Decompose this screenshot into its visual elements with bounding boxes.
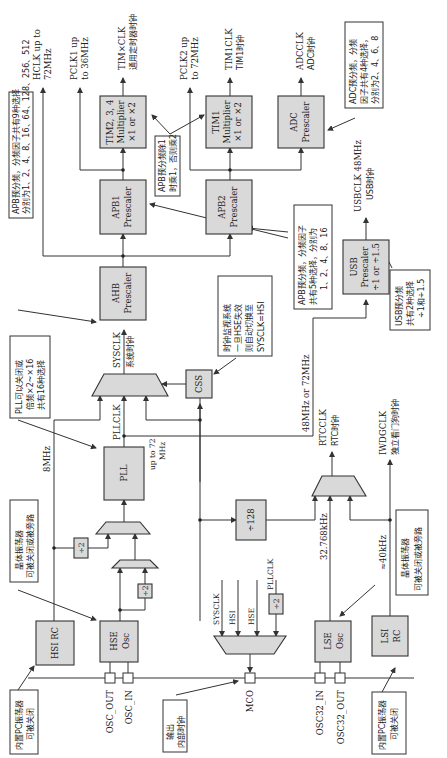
blocks-lsi_rc-0-label: LSI <box>380 629 390 644</box>
signals-adcclk-1-label: ADC时钟 <box>306 37 316 70</box>
div128-label: ÷128 <box>246 508 256 531</box>
signals-khz32768-label: 32.768kHz <box>319 513 329 560</box>
notes-lse_note-0-label: 晶体振荡器 <box>400 538 410 578</box>
signals-iwdgclk-1-label: 独立看门狗时钟 <box>390 399 400 455</box>
blocks-lse_osc-0-label: LSE <box>323 632 333 650</box>
blocks-ahb-1-label: Prescaler <box>123 272 133 314</box>
pll-source-mux <box>96 522 150 534</box>
signals-tim1clk-1-label: TIM1时钟 <box>235 35 245 71</box>
blocks-div2_pll-label: ÷2 <box>272 598 281 609</box>
signals-usbclk-1-label: USB时钟 <box>365 168 375 200</box>
hsi-rc-label: HSI RC <box>50 627 60 659</box>
signals-sysclk-0-label: SYSCLK <box>112 332 122 368</box>
notes-lsi_note-0-label: 内置PC振荡器 <box>377 700 387 750</box>
notes-css_note-2-label: 则自动切换至 <box>244 304 254 352</box>
blocks-tim234-0-label: TIM2, 3, 4 <box>105 100 115 145</box>
signals-timxclk-1-label: 通用定时器时钟 <box>128 14 138 70</box>
signals-tim1clk-0-label: TIM1CLK <box>224 28 234 70</box>
signals-rtcclk-1-label: RTC时钟 <box>330 415 340 446</box>
blocks-div2_hsi-label: ÷2 <box>77 542 86 553</box>
signals-mco_hse-label: HSE <box>247 608 256 625</box>
stm32-clock-tree-diagram: HSI RC HSE Osc PLL CSS AHB Prescaler APB… <box>0 0 447 758</box>
blocks-hse_osc-1-label: Osc <box>121 633 131 649</box>
notes-css_note-0-label: 时钟监视系统 <box>222 304 232 352</box>
notes-mco_note-1-label: 内部时钟 <box>176 716 186 748</box>
hse-osc-block <box>100 621 138 662</box>
pins-mco-label: MCO <box>245 690 255 712</box>
notes-apb2_note-1-label: 共有5种选择，分别为 <box>308 228 318 305</box>
notes-apb2_note-2-label: 1、2、4、8、16 <box>320 227 329 290</box>
mco-mux <box>214 636 286 654</box>
osc-in-pin <box>123 673 133 683</box>
notes-apb_mult-0-label: APB预分频除1 <box>157 139 167 192</box>
signals-timxclk-0-label: TIM×CLK <box>117 26 127 70</box>
notes-lse_note-1-label: 可被关闭或被旁路 <box>413 527 423 591</box>
blocks-ahb-0-label: AHB <box>111 283 121 304</box>
lse-osc-block <box>315 621 351 662</box>
signals-pllclk-label: PLLCLK <box>112 404 122 440</box>
blocks-apb1-1-label: Prescaler <box>123 186 133 228</box>
notes-css_note-3-label: SYSCLK=HSI <box>257 302 266 353</box>
signals-pclk1-0-label: PCLK1 up <box>69 36 79 80</box>
notes-adc_note-0-label: ADC预分频，分频 <box>348 39 358 104</box>
notes-mco_note-0-label: 输出 <box>165 724 175 740</box>
notes-pll_note-2-label: 共有16种选择 <box>36 360 46 410</box>
blocks-tim1-2-label: ×1 or ×2 <box>233 102 243 142</box>
notes-pll_note-0-label: PLL可以关闭或 <box>14 360 24 414</box>
signals-usbclk-0-label: USBCLK 48MHz <box>353 139 363 212</box>
notes-adc_note-1-label: 因子共有4种选择， <box>359 35 369 104</box>
signals-khz40-label: ≈40kHz <box>378 534 388 570</box>
pins-osc_out-label: OSC_OUT <box>105 690 116 734</box>
blocks-apb2-1-label: Prescaler <box>229 186 239 228</box>
blocks-usb-2-label: ÷1 or ÷1.5 <box>371 243 381 291</box>
notes-css_note-1-label: 一旦HSE失效 <box>233 304 243 352</box>
pins-osc32_out-label: OSC32_OUT <box>336 690 347 744</box>
notes-hse_note-0-label: 晶体振荡器 <box>14 530 24 570</box>
signals-up_to_72-0-label: up to 72 <box>148 438 157 470</box>
blocks-lsi_rc-1-label: RC <box>392 630 402 643</box>
notes-apb_main-0-label: APB预分频，分频因子共有9种选择 <box>11 89 21 214</box>
blocks-apb1-0-label: APB1 <box>111 195 121 220</box>
signals-adcclk-0-label: ADCCLK <box>295 31 305 71</box>
notes-hsi_note-0-label: 内置PC振荡器 <box>14 700 24 750</box>
signals-iwdgclk-0-label: IWDGCLK <box>378 410 388 455</box>
blocks-lse_osc-1-label: Osc <box>335 633 345 649</box>
hse-div-mux <box>112 560 158 568</box>
osc32-out-pin <box>335 673 345 683</box>
signals-mco_pllclk-label: PLLCLK <box>266 558 275 590</box>
notes-apb_mult-1-label: 时乘1，否则乘2 <box>168 134 178 192</box>
signals-mco_hsi-label: HSI <box>228 610 237 625</box>
pll-label: PLL <box>119 464 129 481</box>
lsi-rc-block <box>372 616 408 656</box>
osc-out-pin <box>105 673 115 683</box>
notes-apb2_note-0-label: APB预分频，分频因子 <box>297 225 307 305</box>
signals-pclk2-0-label: PCLK2 up <box>179 36 189 80</box>
rtc-mux <box>312 476 366 496</box>
signals-rtcclk-0-label: RTCCLK <box>318 408 328 446</box>
mco-pin <box>245 673 255 683</box>
notes-hsi_note-1-label: 可被关闭 <box>25 708 35 740</box>
signals-hclk-0-label: HCLK up to <box>32 29 42 80</box>
signals-pclk1-1-label: to 36MHz <box>80 37 90 80</box>
blocks-hse_osc-0-label: HSE <box>109 631 119 650</box>
blocks-tim234-1-label: Multiplier <box>116 100 126 144</box>
blocks-usb-0-label: USB <box>349 257 359 276</box>
blocks-tim1-0-label: TIM1 <box>211 110 221 133</box>
notes-apb_main-1-label: 分别为1、2、4、8、16、64、128、256、512 <box>21 39 31 214</box>
notes-adc_note-2-label: 分别为2、4、6、8 <box>370 36 380 104</box>
signals-usb_in-label: 48MHz or 72MHz <box>301 354 311 432</box>
osc32-in-pin <box>315 673 325 683</box>
sysclk-mux <box>92 374 168 396</box>
notes-lsi_note-1-label: 可被关闭 <box>389 708 399 740</box>
signals-mhz8-label: 8MHz <box>42 445 52 472</box>
blocks-adc-1-label: Prescaler <box>301 101 311 143</box>
blocks-apb2-0-label: APB2 <box>217 195 227 220</box>
blocks-div2_hse-label: ÷2 <box>141 585 150 596</box>
notes-usb_note-0-label: USB预分频 <box>394 286 404 326</box>
blocks-usb-1-label: Prescaler <box>360 246 370 288</box>
notes-hse_note-1-label: 可被关闭或被旁路 <box>25 514 35 578</box>
signals-hclk-1-label: 72MHz <box>43 48 53 80</box>
blocks-tim1-1-label: Multiplier <box>222 100 232 144</box>
notes-usb_note-1-label: 共有2种选择 <box>405 281 415 326</box>
signals-sysclk-1-label: 系统时钟 <box>125 336 135 368</box>
